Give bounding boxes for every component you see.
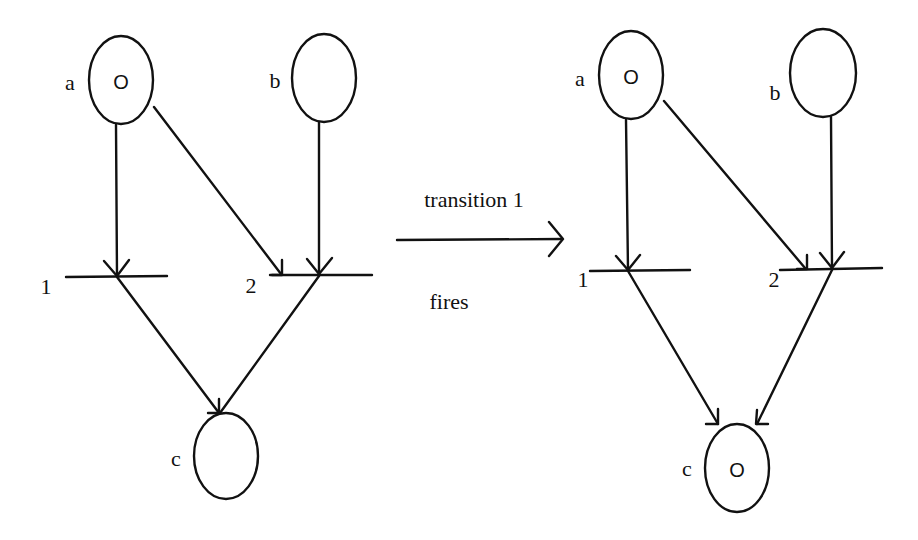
place-c-after: O: [705, 424, 769, 512]
token: O: [623, 66, 639, 88]
transition-label-2: 2: [769, 267, 780, 292]
arc-1-to-c: [117, 277, 219, 413]
arc-a-to-1: [616, 120, 640, 270]
token: O: [113, 71, 129, 93]
token: O: [729, 459, 745, 481]
arc-2-to-c: [208, 276, 319, 413]
place-a-after: O: [599, 31, 663, 119]
firing-arrow: transition 1 fires: [397, 187, 563, 314]
place-label-a: a: [575, 66, 585, 91]
arc-b-to-2: [307, 122, 332, 274]
arc-b-to-2: [820, 117, 844, 268]
arc-a-to-2: [154, 107, 282, 275]
transition-label-1: 1: [578, 267, 589, 292]
net-after: O a b 1 2: [575, 29, 882, 512]
place-label-c: c: [682, 456, 692, 481]
place-a-before: O: [89, 36, 153, 124]
place-b-after: [790, 29, 856, 117]
place-label-a: a: [65, 70, 75, 95]
place-b-before: [292, 34, 356, 122]
place-c-before: [194, 413, 258, 499]
place-label-b: b: [270, 68, 281, 93]
caption-transition: transition 1: [424, 187, 524, 212]
place-label-c: c: [171, 446, 181, 471]
arc-1-to-c: [628, 271, 718, 424]
arc-a-to-1: [104, 125, 129, 276]
net-before: O a b 1 2: [41, 34, 373, 499]
arc-a-to-2: [664, 101, 807, 269]
place-label-b: b: [770, 80, 781, 105]
transition-label-2: 2: [246, 273, 257, 298]
transition-1-bar: [590, 270, 690, 271]
arc-2-to-c: [756, 270, 832, 424]
transition-label-1: 1: [41, 274, 52, 299]
caption-fires: fires: [429, 289, 468, 314]
petri-net-diagram: O a b 1 2: [0, 0, 918, 540]
